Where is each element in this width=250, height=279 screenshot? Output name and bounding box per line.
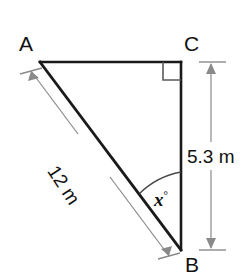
geometry-figure: A B C 5.3 m 12 m x° [0,0,250,279]
triangle-drawing [0,0,250,279]
degree-symbol-icon: ° [164,189,168,201]
dimension-12m [20,68,180,259]
dimension-5-3m-arrow-top-icon [206,63,216,74]
vertex-label-a: A [19,33,33,54]
dimension-5-3m-arrow-bottom-icon [206,238,216,249]
triangle-shape [40,62,181,250]
angle-label-x: x° [154,190,168,209]
right-angle-marker-icon [163,62,181,80]
angle-variable: x [154,189,164,210]
side-ab-hypotenuse [40,62,181,250]
vertex-label-c: C [184,33,199,54]
vertex-label-b: B [185,254,199,275]
side-length-label-bc: 5.3 m [184,145,237,168]
